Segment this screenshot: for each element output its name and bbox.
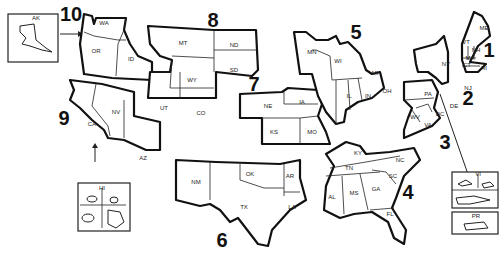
- region-number-4: 4: [402, 181, 413, 204]
- label-va: VA: [424, 122, 432, 128]
- label-tn: TN: [345, 165, 353, 171]
- label-id: ID: [128, 56, 134, 62]
- region-number-10: 10: [60, 3, 82, 26]
- region-number-9: 9: [58, 107, 69, 130]
- label-or: OR: [92, 48, 101, 54]
- label-me: ME: [480, 25, 489, 31]
- us-regions-map: [0, 0, 501, 257]
- label-fl: FL: [386, 211, 393, 217]
- label-ms: MS: [350, 190, 359, 196]
- region-number-6: 6: [216, 229, 227, 252]
- region-number-8: 8: [207, 9, 218, 32]
- label-wa: WA: [99, 20, 108, 26]
- label-ia: IA: [299, 99, 305, 105]
- label-ma: MA: [466, 55, 475, 61]
- region-number-5: 5: [350, 21, 361, 44]
- label-pr: PR: [472, 213, 480, 219]
- label-tx: TX: [240, 204, 248, 210]
- label-nh: NH: [472, 47, 481, 53]
- region-number-7: 7: [248, 73, 259, 96]
- label-vt: VT: [462, 39, 470, 45]
- label-ut: UT: [160, 105, 168, 111]
- label-wi: WI: [334, 58, 341, 64]
- label-nc: NC: [396, 157, 405, 163]
- region-9: [70, 80, 160, 150]
- label-ks: KS: [270, 129, 278, 135]
- region-number-1: 1: [483, 39, 494, 62]
- label-hi: HI: [99, 185, 105, 191]
- alaska-inset: [8, 14, 58, 62]
- label-wv: WV: [410, 114, 420, 120]
- label-az: AZ: [139, 155, 147, 161]
- label-mi: MI: [372, 70, 379, 76]
- label-ak: AK: [32, 15, 40, 21]
- label-ny: NY: [442, 61, 450, 67]
- label-sd: SD: [230, 67, 238, 73]
- label-ne: NE: [264, 103, 272, 109]
- label-ga: GA: [372, 186, 381, 192]
- label-nd: ND: [230, 42, 239, 48]
- label-ok: OK: [246, 171, 255, 177]
- label-de: DE: [450, 103, 458, 109]
- label-wy: WY: [187, 77, 197, 83]
- label-ar: AR: [286, 173, 294, 179]
- label-sc: SC: [389, 173, 397, 179]
- region-3: [404, 80, 440, 138]
- label-mn: MN: [307, 49, 316, 55]
- label-co: CO: [197, 110, 206, 116]
- label-la: LA: [288, 204, 295, 210]
- label-ct: CT: [463, 62, 471, 68]
- label-in: IN: [365, 93, 371, 99]
- region-number-2: 2: [462, 87, 473, 110]
- region-2: [414, 36, 448, 84]
- label-ri: RI: [481, 65, 487, 71]
- label-pa: PA: [424, 91, 432, 97]
- label-vi: VI: [475, 171, 481, 177]
- label-mt: MT: [179, 40, 188, 46]
- region-8: [148, 26, 258, 98]
- label-al: AL: [328, 194, 335, 200]
- label-mo: MO: [307, 129, 317, 135]
- label-nv: NV: [112, 109, 120, 115]
- label-nm: NM: [191, 179, 200, 185]
- region-number-3: 3: [439, 131, 450, 154]
- label-dc: DC: [436, 111, 445, 117]
- label-il: IL: [346, 93, 351, 99]
- arrow-head-icon: [92, 143, 98, 148]
- label-oh: OH: [383, 88, 392, 94]
- label-ky: KY: [354, 150, 362, 156]
- label-ca: CA: [88, 121, 96, 127]
